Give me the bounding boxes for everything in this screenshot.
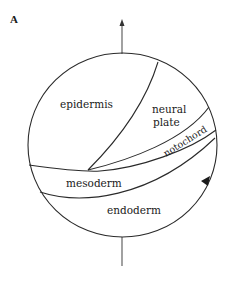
- label-epidermis: epidermis: [60, 98, 113, 110]
- panel-label: A: [10, 13, 18, 25]
- neural-plate-boundary: [88, 62, 158, 170]
- arrowhead-icon: [120, 19, 125, 26]
- label-endoderm: endoderm: [107, 204, 161, 216]
- rotation-arrowhead-icon: [201, 176, 210, 186]
- label-neural: neural: [152, 103, 187, 115]
- label-mesoderm: mesoderm: [66, 177, 122, 189]
- label-plate: plate: [153, 116, 180, 128]
- animal-pole-arrow: [120, 19, 125, 54]
- embryo-fate-map-diagram: A epidermis neural plate notochord mesod…: [0, 0, 227, 282]
